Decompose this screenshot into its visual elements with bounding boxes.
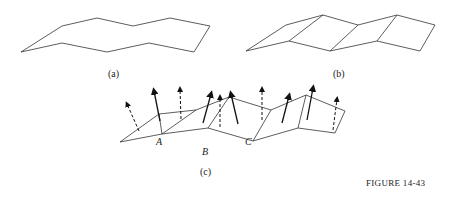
panel-b-label: (b) <box>333 68 345 79</box>
point-b-label: B <box>202 146 208 157</box>
figure-caption: FIGURE 14-43 <box>366 178 425 188</box>
panel-b-strip <box>246 15 435 51</box>
panel-a-label: (a) <box>108 68 119 79</box>
point-c-label: C <box>245 136 252 147</box>
panel-a-strip <box>21 18 210 52</box>
panel-c-label: (c) <box>200 166 211 177</box>
normal-vectors <box>127 88 337 131</box>
point-a-label: A <box>156 136 162 147</box>
